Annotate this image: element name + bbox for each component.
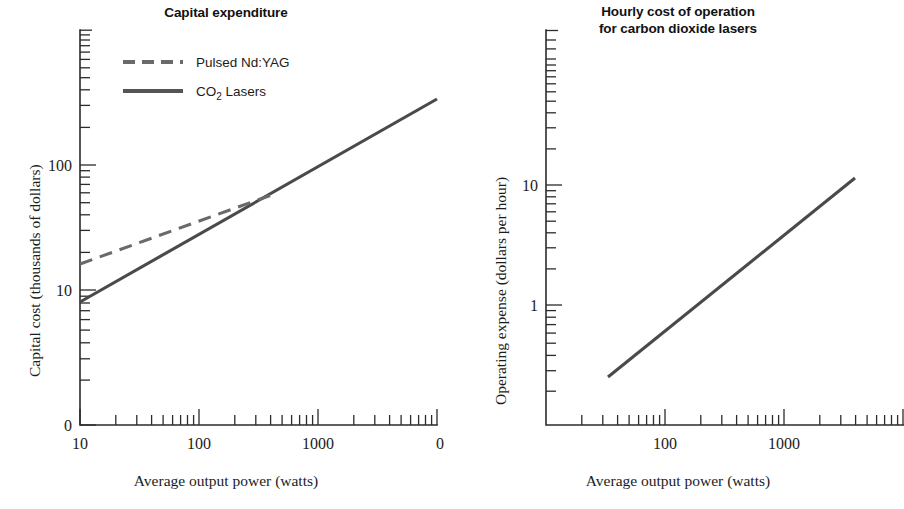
legend-label-co2-lasers: CO2 Lasers xyxy=(196,84,266,102)
chart-panel-hourly-cost: Hourly cost of operation for carbon diox… xyxy=(452,0,904,509)
x-axis-title-left: Average output power (watts) xyxy=(0,472,452,490)
y-tick-label-10-right: 10 xyxy=(522,177,538,194)
figure-canvas: Capital expenditure xyxy=(0,0,904,509)
series-line-pulsed-ndyag xyxy=(80,193,277,264)
plot-area-capital-expenditure: 100 10 0 xyxy=(0,0,452,470)
x-tick-label-100-right: 100 xyxy=(653,435,677,452)
y-axis-ticks-right xyxy=(546,31,562,392)
y-axis-title-left: Capital cost (thousands of dollars) xyxy=(26,164,44,377)
x-axis-ticks-right xyxy=(582,409,903,425)
chart-panel-capital-expenditure: Capital expenditure xyxy=(0,0,452,509)
x-axis-ticks-left xyxy=(80,409,437,425)
y-axis-title-right: Operating expense (dollars per hour) xyxy=(492,177,510,405)
y-tick-label-100-left: 100 xyxy=(48,157,72,174)
x-tick-label-1000-left: 1000 xyxy=(302,435,334,452)
x-tick-label-1000-right: 1000 xyxy=(768,435,800,452)
y-tick-label-10-left: 10 xyxy=(56,282,72,299)
x-tick-label-10000-left: 0 xyxy=(436,435,444,452)
legend-label-pulsed-ndyag: Pulsed Nd:YAG xyxy=(196,55,290,70)
plot-area-hourly-cost: 10 1 xyxy=(452,0,904,470)
x-tick-label-10-left: 10 xyxy=(72,435,88,452)
x-tick-label-100-left: 100 xyxy=(187,435,211,452)
y-tick-label-0-left: 0 xyxy=(64,417,72,434)
y-tick-label-1-right: 1 xyxy=(530,297,538,314)
axis-lines-right xyxy=(546,30,904,425)
legend-capital-expenditure: Pulsed Nd:YAG CO2 Lasers xyxy=(123,55,290,102)
series-line-operating-expense xyxy=(608,178,855,377)
x-axis-title-right: Average output power (watts) xyxy=(452,472,904,490)
y-axis-ticks-left xyxy=(80,30,96,425)
